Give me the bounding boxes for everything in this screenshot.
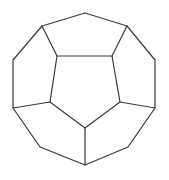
dodecahedron-figure: Regular dodecahedron wireframe Line draw…	[0, 0, 169, 180]
